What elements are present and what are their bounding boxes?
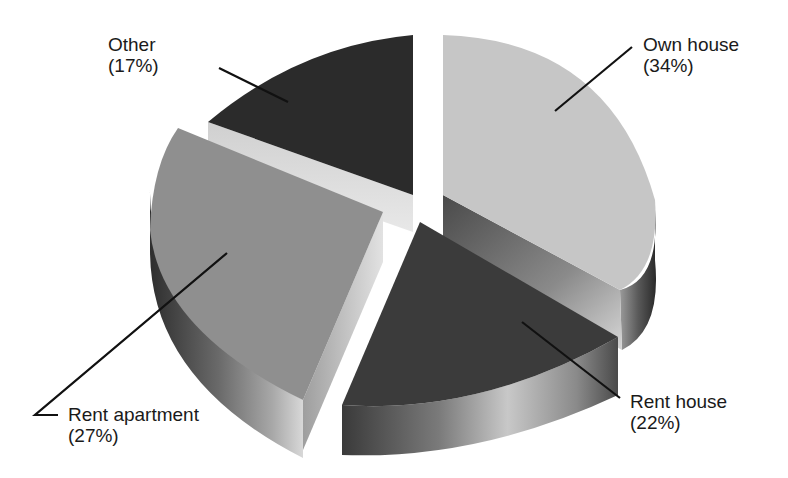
- label-other-pct: (17%): [108, 55, 159, 76]
- label-rent-apartment: Rent apartment (27%): [68, 404, 199, 446]
- label-other: Other (17%): [108, 34, 159, 76]
- label-rent-house-name: Rent house: [630, 391, 727, 412]
- label-rent-house: Rent house (22%): [630, 391, 727, 433]
- label-rent-apartment-pct: (27%): [68, 425, 199, 446]
- label-own-house-pct: (34%): [643, 55, 739, 76]
- label-own-house: Own house (34%): [643, 34, 739, 76]
- label-rent-house-pct: (22%): [630, 412, 727, 433]
- label-own-house-name: Own house: [643, 34, 739, 55]
- label-rent-apartment-name: Rent apartment: [68, 404, 199, 425]
- label-other-name: Other: [108, 34, 159, 55]
